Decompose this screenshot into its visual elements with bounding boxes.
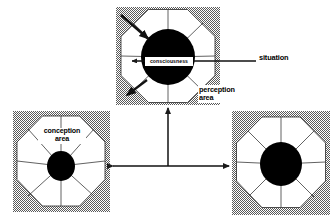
- diagram-canvas: consciousness perception area conception…: [0, 0, 335, 222]
- conception-area-label: conception area: [38, 128, 86, 144]
- diagram-graphics: [0, 0, 335, 222]
- conception-core-circle: [47, 151, 75, 181]
- third-core-circle: [260, 142, 302, 186]
- perception-area-label: perception area: [198, 85, 244, 103]
- third-node: [232, 111, 330, 215]
- consciousness-label: consciousness: [145, 57, 193, 66]
- situation-label: situation: [259, 54, 288, 62]
